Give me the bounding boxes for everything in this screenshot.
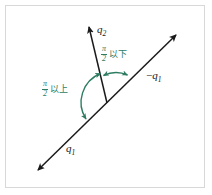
q2-axis-line [89, 27, 107, 103]
small-angle-denominator: 2 [101, 55, 107, 63]
q1-axis-label: q1 [66, 143, 75, 157]
q2-axis-label-subscript: 2 [103, 29, 107, 38]
large-angle-denominator: 2 [42, 90, 48, 98]
small-angle-numerator: π [101, 45, 107, 53]
large-angle-fraction: π 2 [42, 80, 48, 99]
large-angle-label: π 2 以上 [42, 80, 67, 99]
minus-q1-axis-label: −q1 [146, 70, 161, 84]
small-angle-text: 以下 [109, 50, 126, 59]
q1-axis-label-subscript: 1 [72, 148, 76, 157]
large-angle-numerator: π [42, 80, 48, 88]
q2-axis-label: q2 [97, 24, 106, 38]
small-angle-label: π 2 以下 [101, 45, 126, 64]
small-angle-arc [104, 73, 128, 76]
small-angle-fraction: π 2 [101, 45, 107, 64]
large-angle-text: 以上 [50, 85, 67, 94]
minus-q1-subscript: 1 [158, 75, 162, 84]
geometry-figure: q2 −q1 q1 π 2 以下 π 2 以上 [0, 0, 212, 195]
